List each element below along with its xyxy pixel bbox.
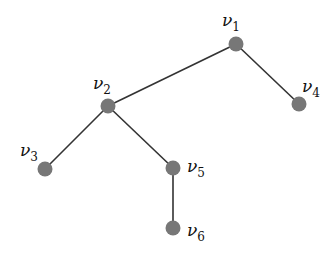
edge-v2-v3 <box>45 106 108 169</box>
node-circle <box>101 99 116 114</box>
node-circle <box>292 97 307 112</box>
node-label: ν4 <box>302 76 320 100</box>
node-label: ν1 <box>222 10 240 34</box>
node-label: ν6 <box>187 220 205 244</box>
node-label: ν2 <box>93 73 111 97</box>
node-v1: ν1 <box>222 10 244 52</box>
node-circle <box>166 161 181 176</box>
node-label: ν5 <box>187 156 205 180</box>
node-circle <box>166 221 181 236</box>
node-circle <box>38 162 53 177</box>
tree-diagram: ν1ν2ν3ν4ν5ν6 <box>0 0 336 256</box>
node-v3: ν3 <box>20 140 53 177</box>
edge-v2-v5 <box>108 106 173 168</box>
nodes: ν1ν2ν3ν4ν5ν6 <box>20 10 320 244</box>
node-circle <box>229 37 244 52</box>
edge-v1-v2 <box>108 44 236 106</box>
node-label: ν3 <box>20 140 38 164</box>
edges <box>45 44 299 228</box>
node-v2: ν2 <box>93 73 116 114</box>
node-v6: ν6 <box>166 220 205 244</box>
node-v4: ν4 <box>292 76 321 112</box>
node-v5: ν5 <box>166 156 205 180</box>
edge-v1-v4 <box>236 44 299 104</box>
